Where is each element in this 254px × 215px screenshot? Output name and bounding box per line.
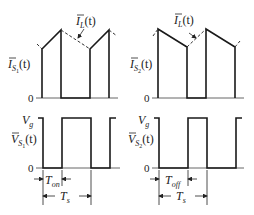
vs2-waveform: [154, 118, 242, 168]
panel-is1: IL(t) IS1(t) 0: [7, 14, 118, 104]
vs1-axis-label: VS1(t): [11, 132, 37, 149]
is2-zero-label: 0: [144, 92, 150, 104]
il-label-1: IL(t): [75, 14, 96, 30]
is1-waveform: [42, 30, 109, 98]
vs1-top-label: Vg: [22, 113, 33, 129]
vs2-axis-label: VS2(t): [128, 132, 154, 149]
il-dashed-trace: [61, 30, 90, 49]
il-label-2: IL(t): [173, 13, 194, 29]
is1-axis-label: IS1(t): [7, 57, 30, 74]
ton-label: Ton: [45, 173, 60, 189]
il-pointer-arrow: [78, 29, 84, 38]
ts-label: Ts: [60, 189, 70, 205]
vs1-zero-label: 0: [28, 162, 34, 174]
vs2-top-label: Vg: [138, 113, 149, 129]
panel-vs1: Vg VS1(t) 0 Ton Ts: [11, 113, 120, 205]
is2-axis-label: IS2(t): [129, 57, 152, 74]
toff-label: Toff: [165, 173, 182, 189]
is1-zero-label: 0: [28, 92, 34, 104]
ts2-label: Ts: [176, 189, 186, 205]
il-pointer-arrow-2: [189, 33, 196, 38]
switch-waveforms-diagram: IL(t) IS1(t) 0 IL(t) IS2(t) 0 Vg: [0, 0, 254, 215]
vs1-waveform: [38, 118, 116, 168]
is2-waveform: [158, 29, 235, 98]
vs2-zero-label: 0: [144, 162, 150, 174]
panel-vs2: Vg VS2(t) 0 Toff Ts: [128, 113, 244, 205]
panel-is2: IL(t) IS2(t) 0: [129, 13, 244, 104]
il-dashed-trace-2: [187, 29, 206, 47]
